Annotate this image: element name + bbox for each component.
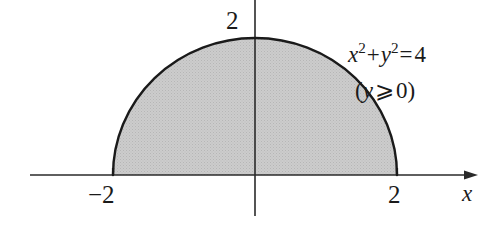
equation-y-variable: y	[381, 42, 391, 67]
condition-value: 0	[396, 78, 408, 103]
x-axis-name-label: x	[462, 182, 472, 205]
semicircle-figure: 2 −2 2 x x2+y2=4 (y⩾0)	[0, 0, 490, 225]
condition-open-paren: (	[355, 78, 363, 103]
x-axis-tick-label-positive-2: 2	[388, 182, 401, 207]
equation-x-variable: x	[348, 42, 358, 67]
equation-right-hand-side: 4	[414, 42, 428, 67]
equation-x-exponent: 2	[358, 39, 366, 56]
equation-plus-operator: +	[366, 42, 381, 67]
equation-equals-operator: =	[399, 42, 414, 67]
condition-greater-equal-sign: ⩾	[373, 77, 396, 103]
equation-y-exponent: 2	[391, 39, 399, 56]
x-axis-arrowhead	[464, 171, 478, 180]
figure-canvas	[0, 0, 490, 225]
condition-close-paren: )	[407, 78, 415, 103]
y-axis-tick-label-2: 2	[226, 8, 239, 33]
x-axis-tick-label-negative-2: −2	[88, 182, 115, 207]
equation-line-circle: x2+y2=4	[348, 36, 427, 73]
condition-variable: y	[363, 78, 373, 103]
equation-annotation: x2+y2=4 (y⩾0)	[348, 36, 427, 109]
equation-line-condition: (y⩾0)	[355, 73, 427, 109]
